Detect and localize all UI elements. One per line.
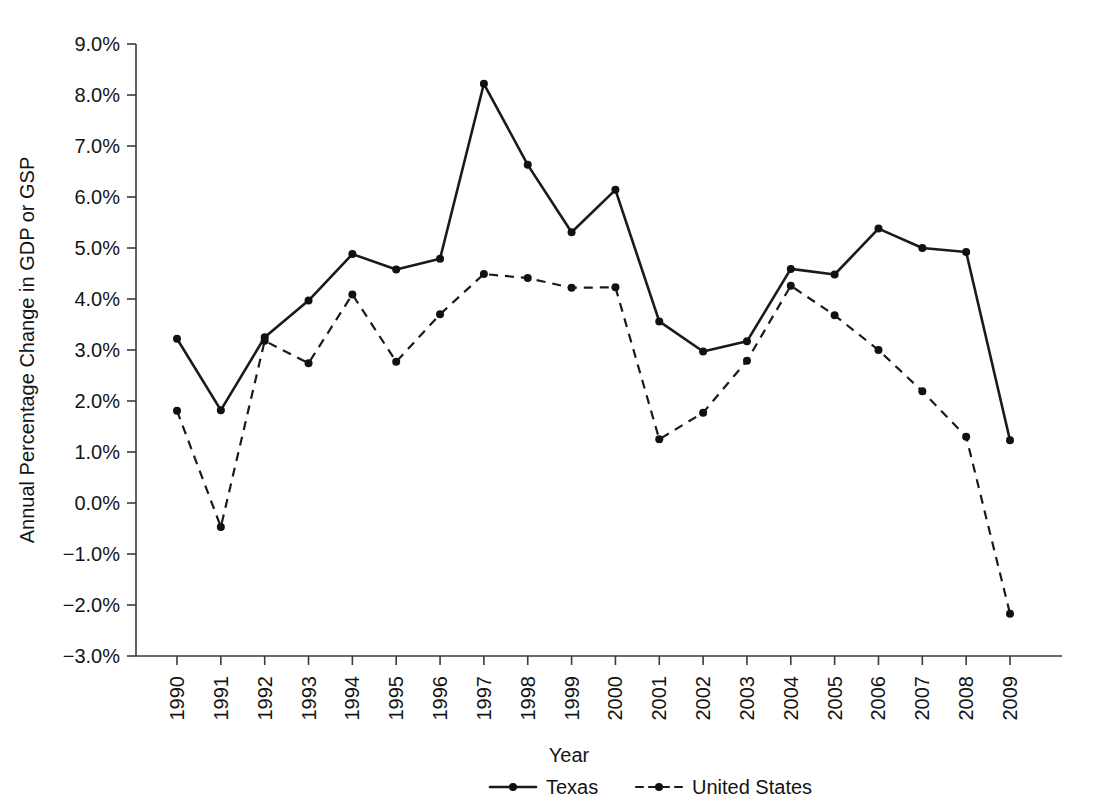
y-axis-tick-label: 1.0% [74,441,120,463]
series-line-texas [177,84,1010,440]
x-axis-tick-label: 2005 [824,676,846,721]
y-axis-tick-label: 8.0% [74,84,120,106]
x-axis-tick-label: 1995 [385,676,407,721]
data-point [305,359,313,367]
data-point [173,407,181,415]
data-point [831,311,839,319]
data-point [611,186,619,194]
x-axis-tick-label: 2003 [736,676,758,721]
y-axis-tick-label: 7.0% [74,135,120,157]
data-point [524,274,532,282]
data-point [874,346,882,354]
data-point [655,435,663,443]
data-point [348,250,356,258]
y-axis-tick-label: −1.0% [63,543,120,565]
y-axis-tick-label: −3.0% [63,645,120,667]
data-point [831,271,839,279]
data-point [1006,436,1014,444]
data-point [568,228,576,236]
data-point [699,409,707,417]
data-point [480,80,488,88]
x-axis-tick-label: 2006 [867,676,889,721]
x-axis-tick-label: 1996 [429,676,451,721]
x-axis-title: Year [549,744,590,766]
data-point [392,265,400,273]
chart-legend: TexasUnited States [490,776,812,798]
y-axis-tick-label: 4.0% [74,288,120,310]
chart-canvas: 9.0%8.0%7.0%6.0%5.0%4.0%3.0%2.0%1.0%0.0%… [0,0,1101,806]
y-axis: 9.0%8.0%7.0%6.0%5.0%4.0%3.0%2.0%1.0%0.0%… [63,33,136,667]
x-axis-tick-label: 2000 [604,676,626,721]
x-axis-tick-label: 1998 [517,676,539,721]
data-point [787,265,795,273]
data-point [655,317,663,325]
data-point [348,290,356,298]
y-axis-tick-label: 9.0% [74,33,120,55]
y-axis-tick-label: −2.0% [63,594,120,616]
y-axis-title: Annual Percentage Change in GDP or GSP [16,157,38,544]
x-axis: 1990199119921993199419951996199719981999… [136,656,1062,721]
series-line-united-states [177,274,1010,614]
data-point [962,433,970,441]
data-point [874,225,882,233]
x-axis-tick-label: 2007 [911,676,933,721]
data-point [1006,610,1014,618]
x-axis-tick-label: 1997 [473,676,495,721]
x-axis-tick-label: 1994 [341,676,363,721]
data-point [611,283,619,291]
data-point [217,406,225,414]
x-axis-tick-label: 1999 [561,676,583,721]
data-point [173,335,181,343]
data-point [217,523,225,531]
line-chart: 9.0%8.0%7.0%6.0%5.0%4.0%3.0%2.0%1.0%0.0%… [0,0,1101,806]
legend-marker [509,783,517,791]
x-axis-tick-label: 2001 [648,676,670,721]
data-point [436,310,444,318]
data-point [743,337,751,345]
y-axis-tick-label: 5.0% [74,237,120,259]
data-point [480,270,488,278]
legend-marker [655,783,663,791]
data-point [568,284,576,292]
y-axis-tick-label: 3.0% [74,339,120,361]
data-point [261,337,269,345]
x-axis-tick-label: 2004 [780,676,802,721]
data-point [392,358,400,366]
data-point [787,282,795,290]
x-axis-tick-label: 2009 [999,676,1021,721]
plot-series [173,80,1014,618]
y-axis-tick-label: 2.0% [74,390,120,412]
x-axis-tick-label: 1992 [254,676,276,721]
data-point [962,248,970,256]
data-point [524,161,532,169]
x-axis-tick-label: 1990 [166,676,188,721]
x-axis-tick-label: 1991 [210,676,232,721]
data-point [918,387,926,395]
y-axis-tick-label: 0.0% [74,492,120,514]
data-point [436,255,444,263]
data-point [699,348,707,356]
data-point [743,357,751,365]
y-axis-tick-label: 6.0% [74,186,120,208]
data-point [918,244,926,252]
legend-label-texas: Texas [546,776,598,798]
data-point [305,297,313,305]
x-axis-tick-label: 2002 [692,676,714,721]
x-axis-tick-label: 2008 [955,676,977,721]
legend-label-united-states: United States [692,776,812,798]
x-axis-tick-label: 1993 [298,676,320,721]
